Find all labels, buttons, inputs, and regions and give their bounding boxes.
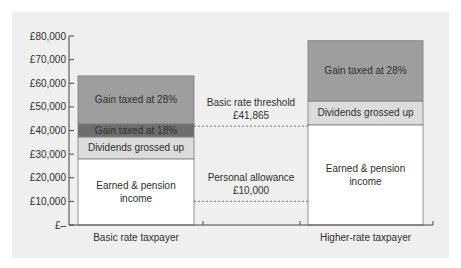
y-tick-label: £30,000: [30, 149, 67, 160]
stacked-bar-chart: Earned & pensionincomeDividends grossed …: [0, 0, 461, 268]
segment-label: Gain taxed at 18%: [95, 125, 177, 136]
segment-label: Earned & pension: [96, 180, 176, 191]
x-category-label: Higher-rate taxpayer: [320, 232, 412, 243]
y-tick-label: £50,000: [30, 101, 67, 112]
segment-label: Dividends grossed up: [88, 142, 185, 153]
segment-label: Earned & pension: [326, 163, 406, 174]
segment-label: Gain taxed at 28%: [324, 65, 406, 76]
segment-label: income: [349, 176, 382, 187]
y-tick-label: £–: [55, 220, 67, 231]
y-tick-label: £60,000: [30, 78, 67, 89]
x-category-label: Basic rate taxpayer: [93, 232, 179, 243]
y-tick-label: £10,000: [30, 196, 67, 207]
segment-label: Gain taxed at 28%: [95, 94, 177, 105]
reference-label: £10,000: [233, 185, 270, 196]
segment-label: Dividends grossed up: [317, 107, 414, 118]
y-tick-label: £70,000: [30, 54, 67, 65]
bar-segment: [78, 159, 194, 225]
segment-label: income: [120, 193, 153, 204]
reference-label: Basic rate threshold: [207, 97, 295, 108]
y-tick-label: £80,000: [30, 31, 67, 42]
y-tick-label: £40,000: [30, 125, 67, 136]
bar-segment: [308, 125, 423, 225]
reference-label: Personal allowance: [208, 172, 295, 183]
y-tick-label: £20,000: [30, 172, 67, 183]
reference-label: £41,865: [233, 110, 270, 121]
